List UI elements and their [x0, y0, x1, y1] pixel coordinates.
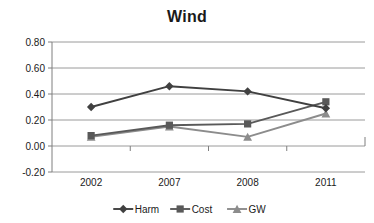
- wind-line-chart: Wind -0.200.000.200.400.600.80 200220072…: [0, 0, 374, 223]
- x-axis-tick-label: 2007: [158, 177, 181, 188]
- legend-label: Harm: [135, 204, 159, 215]
- y-axis-tick-label: 0.60: [26, 63, 46, 74]
- y-axis-tick-label: 0.00: [26, 141, 46, 152]
- y-axis-tick-label: -0.20: [22, 167, 45, 178]
- chart-background: [0, 0, 374, 223]
- data-point-marker: [88, 132, 95, 139]
- chart-title: Wind: [167, 8, 207, 25]
- x-axis-tick-label: 2011: [315, 177, 337, 188]
- y-axis-tick-label: 0.20: [26, 115, 46, 126]
- y-axis-tick-label: 0.80: [26, 37, 46, 48]
- y-axis-tick-label: 0.40: [26, 89, 46, 100]
- data-point-marker: [166, 122, 173, 129]
- data-point-marker: [244, 120, 251, 127]
- legend-marker: [177, 205, 184, 212]
- x-axis-tick-label: 2008: [237, 177, 260, 188]
- x-axis-tick-label: 2002: [80, 177, 103, 188]
- legend-label: Cost: [192, 204, 213, 215]
- chart-canvas: Wind -0.200.000.200.400.600.80 200220072…: [0, 0, 374, 223]
- legend-label: GW: [249, 204, 267, 215]
